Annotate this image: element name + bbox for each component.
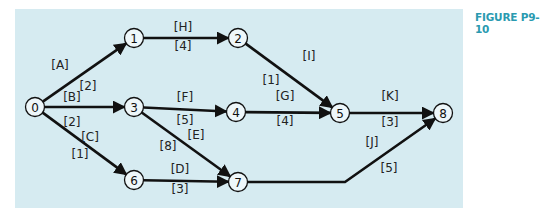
node-5: 5 <box>331 104 350 123</box>
activity-name-label: [E] <box>188 128 205 142</box>
activity-name-label: [F] <box>177 90 193 104</box>
svg-text:5: 5 <box>336 107 344 121</box>
activity-name-label: [K] <box>381 89 398 103</box>
node-2: 2 <box>229 29 248 48</box>
activity-name-label: [J] <box>366 135 379 149</box>
node-3: 3 <box>125 98 144 117</box>
activity-name-label: [D] <box>171 162 190 176</box>
svg-text:4: 4 <box>232 106 240 120</box>
activity-arrow-4-5 <box>245 112 330 113</box>
activity-duration-label: [5] <box>177 113 194 127</box>
activity-name-label: [I] <box>303 49 316 63</box>
svg-text:0: 0 <box>31 101 39 115</box>
svg-text:7: 7 <box>234 176 242 190</box>
svg-text:3: 3 <box>130 101 138 115</box>
svg-text:8: 8 <box>439 107 447 121</box>
activity-duration-label: [1] <box>263 73 280 87</box>
activity-duration-label: [4] <box>277 114 294 128</box>
svg-text:6: 6 <box>130 174 138 188</box>
svg-text:2: 2 <box>234 32 242 46</box>
activity-name-label: [B] <box>63 90 81 104</box>
activity-duration-label: [4] <box>175 39 192 53</box>
activity-name-label: [H] <box>174 20 192 34</box>
activity-duration-label: [3] <box>382 115 399 129</box>
node-4: 4 <box>227 103 246 122</box>
activity-duration-label: [3] <box>172 182 189 196</box>
activity-duration-label: [1] <box>72 147 89 161</box>
activity-duration-label: [2] <box>64 115 81 129</box>
network-diagram: [A][2][B][2][C][1][H][4][I][1][F][5][E][… <box>0 0 547 215</box>
activity-arrow-3-4 <box>143 107 226 111</box>
activity-duration-label: [8] <box>160 139 177 153</box>
activity-name-label: [G] <box>276 89 295 103</box>
activity-duration-label: [5] <box>381 161 398 175</box>
activity-duration-label: [2] <box>80 79 97 93</box>
activity-name-label: [A] <box>51 58 69 72</box>
node-7: 7 <box>229 173 248 192</box>
svg-text:1: 1 <box>130 32 138 46</box>
node-0: 0 <box>26 98 45 117</box>
activity-name-label: [C] <box>81 130 99 144</box>
node-6: 6 <box>125 171 144 190</box>
node-1: 1 <box>125 29 144 48</box>
node-8: 8 <box>434 104 453 123</box>
